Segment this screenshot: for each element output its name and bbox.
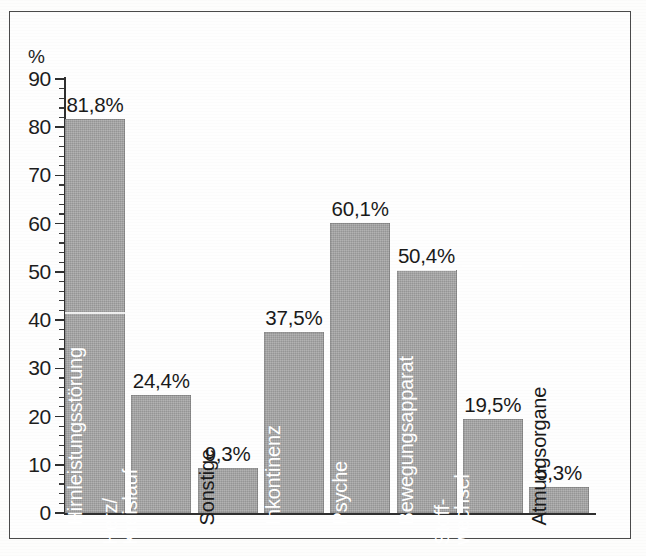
scan-artifact-line [65, 312, 125, 314]
bar-category-label: Psyche [329, 461, 349, 525]
y-tick-major [55, 223, 64, 225]
bar-category-line: Stoff- [432, 474, 452, 545]
y-axis-unit-label: % [28, 46, 45, 68]
y-tick-major [55, 319, 64, 321]
scan-artifact-line [462, 265, 522, 267]
y-tick-label: 80 [0, 116, 56, 137]
bar-category-label: Sonstige [197, 449, 217, 525]
y-tick-label: 60 [0, 213, 56, 234]
y-tick-minor [59, 329, 64, 330]
bar-category-label: Herz/Kreislauf [100, 469, 140, 545]
y-tick-minor [59, 156, 64, 157]
y-tick-minor [59, 136, 64, 137]
y-tick-minor [59, 252, 64, 253]
bar-value-label: 60,1% [324, 197, 396, 221]
y-tick-major [55, 126, 64, 128]
y-tick-minor [59, 194, 64, 195]
y-tick-major [55, 271, 64, 273]
y-tick-minor [59, 242, 64, 243]
y-tick-label: 40 [0, 309, 56, 330]
y-tick-minor [59, 204, 64, 205]
bar-value-label: 50,4% [391, 244, 463, 268]
y-tick-minor [59, 233, 64, 234]
y-tick-minor [59, 262, 64, 263]
scan-artifact-line [396, 269, 456, 271]
bar-value-label: 24,4% [125, 369, 197, 393]
chart-screenshot: % 9080706050403020100 81,8%Hirnleistungs… [0, 0, 646, 556]
y-tick-label: 10 [0, 454, 56, 475]
y-tick-minor [59, 184, 64, 185]
bar-category-label: Bewegungsapparat [396, 356, 416, 525]
bar-category-label: Stoff-wechsel [432, 474, 472, 545]
y-tick-label: 90 [0, 68, 56, 89]
bar-category-line: Psyche [329, 461, 349, 525]
bar-category-line: Bewegungsapparat [396, 356, 416, 525]
bar-category-line: Hirnleistungsstörung [64, 347, 84, 525]
bar-category-line: Kreislauf [120, 469, 140, 545]
bar-value-label: 37,5% [258, 306, 330, 330]
y-tick-label: 20 [0, 406, 56, 427]
y-tick-minor [59, 339, 64, 340]
bar-value-label: 19,5% [457, 393, 529, 417]
y-tick-minor [59, 300, 64, 301]
bar-category-line: Sonstige [197, 449, 217, 525]
y-tick-major [55, 175, 64, 177]
bar-category-label: Inkontinenz [263, 425, 283, 525]
y-tick-minor [59, 310, 64, 311]
y-tick-minor [59, 291, 64, 292]
y-tick-major [55, 78, 64, 80]
y-tick-label: 50 [0, 261, 56, 282]
bar-value-label: 81,8% [59, 93, 131, 117]
bar-category-line: wechsel [452, 474, 472, 545]
y-tick-minor [59, 117, 64, 118]
bar-category-label: Atmungsorgane [528, 387, 548, 526]
y-tick-minor [59, 165, 64, 166]
y-tick-minor [59, 88, 64, 89]
bar-category-line: Atmungsorgane [528, 387, 548, 526]
y-tick-label: 30 [0, 357, 56, 378]
bar-category-line: Inkontinenz [263, 425, 283, 525]
bar-category-label: Hirnleistungsstörung [64, 347, 84, 525]
bar-category-line: Herz/ [100, 469, 120, 545]
y-tick-minor [59, 146, 64, 147]
bar-chart-plot: % 9080706050403020100 81,8%Hirnleistungs… [0, 0, 646, 556]
y-tick-minor [59, 281, 64, 282]
y-tick-label: 70 [0, 164, 56, 185]
y-tick-label: 0 [0, 502, 56, 523]
y-tick-minor [59, 213, 64, 214]
